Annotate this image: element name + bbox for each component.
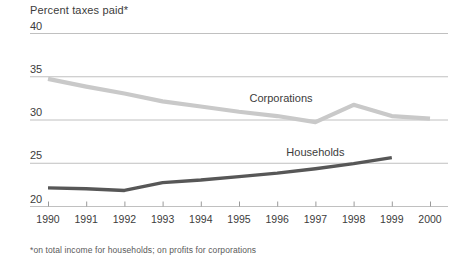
y-axis-tick-label: 40 — [30, 20, 42, 32]
gridlines — [30, 34, 448, 207]
y-axis-tick-label: 30 — [30, 106, 42, 118]
y-axis-tick-label: 20 — [30, 193, 42, 205]
data-series — [48, 79, 430, 191]
x-axis-tick-label: 1990 — [36, 213, 59, 225]
x-axis-tick-label: 1995 — [227, 213, 250, 225]
plot-area — [0, 0, 461, 272]
x-axis-tick-label: 1996 — [266, 213, 289, 225]
series-label-corporations: Corporations — [250, 92, 313, 104]
x-axis-tick-label: 1998 — [342, 213, 365, 225]
x-axis-tick-label: 1993 — [151, 213, 174, 225]
x-axis-tick-label: 1992 — [113, 213, 136, 225]
x-axis-tick-label: 1994 — [189, 213, 212, 225]
x-axis-tick-label: 2000 — [418, 213, 441, 225]
x-axis-ticks — [49, 202, 431, 207]
series-label-households: Households — [286, 146, 344, 158]
x-axis-tick-label: 1991 — [75, 213, 98, 225]
chart-footnote: *on total income for households; on prof… — [30, 245, 256, 255]
y-axis-tick-label: 35 — [30, 63, 42, 75]
x-axis-tick-label: 1997 — [304, 213, 327, 225]
y-axis-tick-label: 25 — [30, 149, 42, 161]
series-line-corporations — [48, 79, 430, 122]
x-axis-tick-label: 1999 — [380, 213, 403, 225]
series-line-households — [48, 158, 392, 191]
chart-container: Percent taxes paid* 4035302520 199019911… — [0, 0, 461, 272]
